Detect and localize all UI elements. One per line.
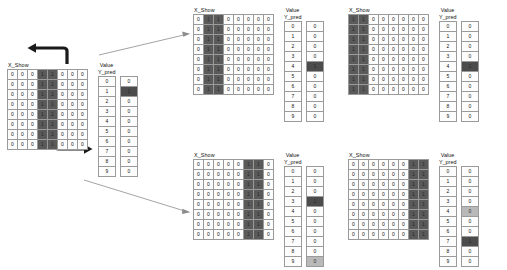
matrix-cell[interactable]: 0 [264, 230, 274, 240]
matrix-cell[interactable]: 1 [244, 180, 254, 190]
matrix-cell[interactable]: 0 [399, 75, 409, 85]
matrix-cell[interactable]: 0 [234, 25, 244, 35]
y-pred-column[interactable]: 0001000000 [306, 166, 324, 267]
matrix-cell[interactable]: 1 [214, 65, 224, 75]
matrix-cell[interactable]: 0 [419, 45, 429, 55]
matrix-cell[interactable]: 0 [68, 110, 78, 120]
matrix-cell[interactable]: 0 [18, 100, 28, 110]
matrix-cell[interactable]: 0 [68, 80, 78, 90]
y-pred-cell[interactable]: 0 [462, 102, 479, 112]
matrix-cell[interactable]: 1 [349, 25, 359, 35]
matrix-cell[interactable]: 0 [68, 120, 78, 130]
matrix-cell[interactable]: 0 [234, 190, 244, 200]
value-cell[interactable]: 2 [285, 42, 302, 52]
x-show-matrix[interactable]: 0000001100000011000000110000001100000011… [348, 159, 429, 240]
matrix-cell[interactable]: 0 [409, 55, 419, 65]
value-cell[interactable]: 0 [285, 167, 302, 177]
matrix-cell[interactable]: 0 [369, 220, 379, 230]
value-column[interactable]: 0123456789 [439, 166, 457, 267]
matrix-cell[interactable]: 0 [28, 130, 38, 140]
matrix-cell[interactable]: 0 [359, 230, 369, 240]
matrix-cell[interactable]: 0 [349, 200, 359, 210]
y-pred-cell[interactable]: 0 [121, 147, 138, 157]
matrix-cell[interactable]: 0 [264, 35, 274, 45]
matrix-cell[interactable]: 0 [379, 15, 389, 25]
matrix-cell[interactable]: 0 [419, 75, 429, 85]
value-cell[interactable]: 0 [440, 167, 457, 177]
matrix-cell[interactable]: 0 [234, 230, 244, 240]
y-pred-cell[interactable]: 0 [462, 257, 479, 267]
matrix-cell[interactable]: 1 [254, 200, 264, 210]
matrix-cell[interactable]: 0 [58, 90, 68, 100]
matrix-cell[interactable]: 0 [214, 210, 224, 220]
matrix-cell[interactable]: 0 [68, 70, 78, 80]
value-cell[interactable]: 9 [440, 257, 457, 267]
matrix-cell[interactable]: 0 [389, 180, 399, 190]
value-cell[interactable]: 1 [440, 32, 457, 42]
matrix-cell[interactable]: 0 [379, 65, 389, 75]
matrix-cell[interactable]: 0 [264, 160, 274, 170]
matrix-cell[interactable]: 0 [214, 220, 224, 230]
matrix-cell[interactable]: 1 [254, 190, 264, 200]
matrix-cell[interactable]: 0 [78, 140, 88, 150]
matrix-cell[interactable]: 0 [8, 70, 18, 80]
y-pred-cell[interactable]: 1 [462, 62, 479, 72]
value-cell[interactable]: 2 [99, 97, 116, 107]
matrix-cell[interactable]: 1 [359, 75, 369, 85]
value-cell[interactable]: 6 [285, 82, 302, 92]
matrix-cell[interactable]: 0 [244, 15, 254, 25]
matrix-cell[interactable]: 0 [369, 160, 379, 170]
matrix-cell[interactable]: 0 [349, 170, 359, 180]
matrix-cell[interactable]: 0 [28, 120, 38, 130]
matrix-cell[interactable]: 0 [389, 35, 399, 45]
matrix-cell[interactable]: 0 [234, 55, 244, 65]
matrix-cell[interactable]: 0 [214, 230, 224, 240]
y-pred-column[interactable]: 0000100000 [306, 21, 324, 122]
matrix-cell[interactable]: 1 [204, 55, 214, 65]
x-show-matrix[interactable]: 0110000001100000011000000110000001100000… [193, 14, 274, 95]
matrix-cell[interactable]: 0 [234, 15, 244, 25]
y-pred-cell[interactable]: 0 [121, 127, 138, 137]
y-pred-cell[interactable]: 0 [462, 72, 479, 82]
matrix-cell[interactable]: 1 [244, 170, 254, 180]
matrix-cell[interactable]: 0 [399, 35, 409, 45]
value-cell[interactable]: 4 [285, 62, 302, 72]
value-cell[interactable]: 5 [99, 127, 116, 137]
matrix-cell[interactable]: 1 [254, 230, 264, 240]
matrix-cell[interactable]: 0 [369, 170, 379, 180]
matrix-cell[interactable]: 0 [8, 140, 18, 150]
matrix-cell[interactable]: 0 [204, 190, 214, 200]
matrix-cell[interactable]: 0 [194, 35, 204, 45]
matrix-cell[interactable]: 0 [28, 110, 38, 120]
matrix-cell[interactable]: 1 [48, 70, 58, 80]
matrix-cell[interactable]: 0 [379, 55, 389, 65]
matrix-cell[interactable]: 0 [379, 170, 389, 180]
matrix-cell[interactable]: 0 [8, 120, 18, 130]
matrix-cell[interactable]: 0 [369, 210, 379, 220]
y-pred-cell[interactable]: 0 [307, 177, 324, 187]
matrix-cell[interactable]: 0 [58, 80, 68, 90]
matrix-cell[interactable]: 0 [234, 85, 244, 95]
matrix-cell[interactable]: 0 [194, 190, 204, 200]
value-cell[interactable]: 1 [99, 87, 116, 97]
matrix-cell[interactable]: 0 [389, 210, 399, 220]
matrix-cell[interactable]: 1 [419, 160, 429, 170]
y-pred-cell[interactable]: 0 [462, 207, 479, 217]
matrix-cell[interactable]: 1 [254, 210, 264, 220]
value-cell[interactable]: 2 [440, 42, 457, 52]
matrix-cell[interactable]: 0 [194, 85, 204, 95]
y-pred-cell[interactable]: 0 [462, 227, 479, 237]
matrix-cell[interactable]: 0 [379, 85, 389, 95]
matrix-cell[interactable]: 0 [389, 45, 399, 55]
matrix-cell[interactable]: 1 [349, 45, 359, 55]
matrix-cell[interactable]: 0 [68, 90, 78, 100]
matrix-cell[interactable]: 0 [399, 230, 409, 240]
matrix-cell[interactable]: 0 [194, 75, 204, 85]
matrix-cell[interactable]: 0 [379, 230, 389, 240]
matrix-cell[interactable]: 0 [244, 35, 254, 45]
matrix-cell[interactable]: 0 [389, 75, 399, 85]
matrix-cell[interactable]: 0 [214, 180, 224, 190]
matrix-cell[interactable]: 0 [264, 220, 274, 230]
value-cell[interactable]: 8 [285, 247, 302, 257]
matrix-cell[interactable]: 0 [264, 15, 274, 25]
